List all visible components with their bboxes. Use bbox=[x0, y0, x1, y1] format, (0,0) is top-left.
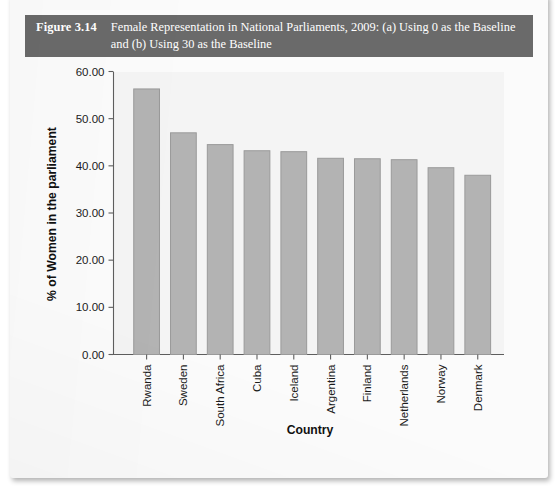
y-tick-label: 0.00 bbox=[82, 349, 104, 361]
y-tick-label: 60.00 bbox=[76, 66, 105, 78]
x-label-netherlands: Netherlands bbox=[398, 364, 410, 426]
x-label-norway: Norway bbox=[435, 364, 447, 403]
bar-chart: 0.0010.0020.0030.0040.0050.0060.00 Rwand… bbox=[10, 0, 548, 478]
x-label-cuba: Cuba bbox=[251, 364, 263, 392]
x-label-iceland: Iceland bbox=[288, 365, 300, 402]
bar-rwanda bbox=[134, 89, 160, 355]
bar-iceland bbox=[281, 152, 307, 355]
bar-denmark bbox=[465, 175, 491, 354]
y-axis-title: % of Women in the parliament bbox=[45, 127, 59, 301]
bar-sweden bbox=[171, 133, 197, 355]
figure-page: Figure 3.14 Female Representation in Nat… bbox=[10, 0, 548, 478]
x-label-rwanda: Rwanda bbox=[141, 364, 153, 407]
x-label-south-africa: South Africa bbox=[214, 364, 226, 427]
x-label-argentina: Argentina bbox=[325, 364, 337, 414]
bar-south-africa bbox=[207, 145, 233, 355]
x-axis-ticks bbox=[147, 355, 478, 360]
bar-argentina bbox=[318, 158, 344, 354]
y-tick-label: 20.00 bbox=[76, 254, 105, 266]
x-axis-category-labels: RwandaSwedenSouth AfricaCubaIcelandArgen… bbox=[141, 364, 484, 427]
x-label-sweden: Sweden bbox=[177, 365, 189, 407]
y-tick-label: 30.00 bbox=[76, 207, 105, 219]
y-axis-ticks: 0.0010.0020.0030.0040.0050.0060.00 bbox=[76, 66, 114, 361]
bar-finland bbox=[354, 159, 380, 355]
bar-netherlands bbox=[391, 160, 417, 355]
bar-norway bbox=[428, 168, 454, 355]
y-tick-label: 50.00 bbox=[76, 113, 105, 125]
y-tick-label: 40.00 bbox=[76, 160, 105, 172]
y-tick-label: 10.00 bbox=[76, 301, 105, 313]
x-label-finland: Finland bbox=[361, 365, 373, 403]
bar-cuba bbox=[244, 151, 270, 355]
x-label-denmark: Denmark bbox=[472, 364, 484, 411]
x-axis-title: Country bbox=[287, 423, 334, 437]
